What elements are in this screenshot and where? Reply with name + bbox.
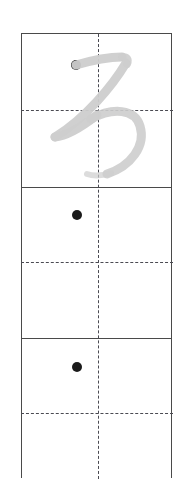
practice-grid <box>21 33 172 478</box>
start-dot-row-3 <box>72 362 82 372</box>
start-dot-row-1 <box>71 60 81 70</box>
row-1-midline-guide <box>21 110 173 111</box>
grid-row-1 <box>22 34 171 187</box>
grid-row-2 <box>22 187 171 338</box>
vertical-center-guide <box>98 34 99 479</box>
grid-row-3 <box>22 338 171 479</box>
row-3-midline-guide <box>21 413 173 414</box>
row-2-midline-guide <box>21 262 173 263</box>
start-dot-row-2 <box>72 210 82 220</box>
